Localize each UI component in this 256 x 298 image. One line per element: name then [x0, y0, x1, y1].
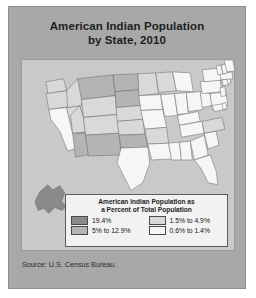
state-ks: [117, 119, 145, 135]
legend-entry: 1.5% to 4.9%: [149, 216, 223, 225]
state-nd: [113, 74, 139, 92]
legend-entry-label: 1.5% to 4.9%: [170, 217, 210, 224]
map-panel: American Indian Population as a Percent …: [21, 59, 235, 251]
state-ne: [116, 106, 143, 122]
figure-title-line-1: American Indian Population: [9, 19, 245, 33]
state-sd: [115, 90, 141, 108]
state-wy: [81, 96, 117, 118]
state-ok: [119, 134, 148, 148]
legend-title: American Indian Population as a Percent …: [66, 198, 227, 214]
state-nm: [85, 133, 121, 156]
legend-entry: 0.6% to 1.4%: [149, 226, 223, 235]
legend-entry-label: 0.6% to 1.4%: [170, 227, 210, 234]
legend-swatch-icon: [149, 226, 166, 235]
state-tx: [117, 147, 150, 191]
state-co: [83, 114, 119, 135]
legend-entry: 19.4%: [71, 216, 145, 225]
legend-title-line-2: a Percent of Total Population: [66, 206, 227, 214]
legend-swatch-icon: [71, 216, 88, 225]
state-la: [148, 143, 172, 160]
source-note: Source: U.S. Census Bureau.: [22, 260, 116, 269]
state-pa: [200, 80, 222, 94]
state-mn: [138, 73, 159, 96]
state-ak: [35, 185, 67, 214]
legend-entry: 5% to 12.9%: [71, 226, 145, 235]
state-mt: [78, 75, 116, 100]
figure-card: American Indian Population by State, 201…: [8, 6, 246, 289]
legend-title-line-1: American Indian Population as: [66, 198, 227, 206]
map-legend: American Indian Population as a Percent …: [65, 194, 228, 247]
legend-swatch-icon: [71, 226, 88, 235]
legend-grid: 19.4% 1.5% to 4.9% 5% to 12.9% 0.6% to 1…: [66, 216, 227, 235]
state-mo: [141, 109, 167, 129]
state-or: [46, 91, 70, 110]
state-nj: [220, 87, 226, 97]
state-nc: [202, 117, 225, 133]
legend-entry-label: 5% to 12.9%: [92, 227, 131, 234]
legend-entry-label: 19.4%: [92, 217, 111, 224]
legend-swatch-icon: [149, 216, 166, 225]
state-de: [222, 103, 227, 110]
state-ar: [145, 127, 169, 144]
figure-title: American Indian Population by State, 201…: [9, 19, 245, 47]
state-fl: [194, 155, 218, 185]
states-layer: [46, 60, 234, 191]
state-ia: [139, 95, 163, 111]
figure-title-line-2: by State, 2010: [9, 33, 245, 47]
state-al: [179, 141, 192, 160]
